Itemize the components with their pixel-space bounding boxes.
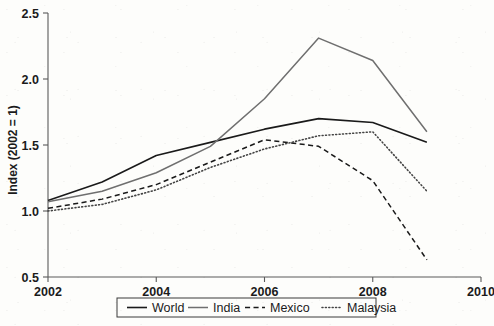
x-tick-label: 2004 [142, 285, 170, 299]
chart-legend: WorldIndiaMexicoMalaysia [117, 298, 396, 317]
x-tick-label: 2002 [34, 285, 62, 299]
x-tick-label: 2010 [467, 285, 494, 299]
legend-label-malaysia: Malaysia [347, 301, 396, 315]
legend-label-india: India [213, 301, 240, 315]
x-tick-label: 2008 [359, 285, 387, 299]
y-axis-title: Index (2002 = 1) [6, 105, 20, 195]
y-tick-label: 0.5 [22, 271, 39, 285]
x-tick-label: 2006 [251, 285, 279, 299]
legend-label-world: World [152, 301, 184, 315]
y-tick-label: 2.0 [22, 73, 39, 87]
legend-label-mexico: Mexico [270, 301, 310, 315]
y-tick-label: 1.5 [22, 139, 39, 153]
y-axis-title-text: Index (2002 = 1) [6, 105, 20, 195]
line-chart: Index (2002 = 1) 0.51.01.52.02.5 2002200… [0, 0, 494, 326]
y-tick-label: 2.5 [22, 7, 39, 21]
chart-figure: Index (2002 = 1) 0.51.01.52.02.5 2002200… [0, 0, 494, 326]
y-tick-label: 1.0 [22, 205, 39, 219]
